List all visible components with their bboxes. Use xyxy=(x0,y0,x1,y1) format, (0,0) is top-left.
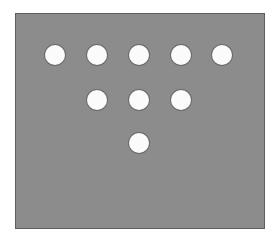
white-circle xyxy=(87,90,107,110)
white-circle xyxy=(129,90,149,110)
white-circle xyxy=(129,45,149,65)
white-circle xyxy=(171,90,191,110)
white-circle xyxy=(129,133,149,153)
white-circle xyxy=(212,45,232,65)
white-circle xyxy=(45,45,65,65)
white-circle xyxy=(171,45,191,65)
white-circle xyxy=(87,45,107,65)
